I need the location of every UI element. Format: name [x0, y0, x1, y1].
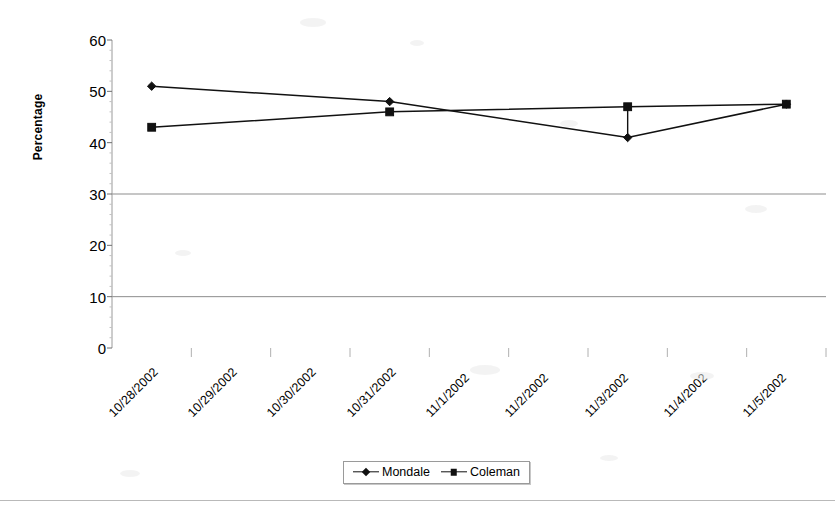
x-axis-tick-labels: 10/28/200210/29/200210/30/200210/31/2002…	[0, 0, 835, 512]
x-tick-label: 11/1/2002	[423, 371, 472, 420]
legend-label: Coleman	[470, 465, 520, 479]
legend-label: Mondale	[382, 465, 430, 479]
page-divider	[0, 500, 835, 501]
chart-legend: MondaleColeman	[343, 461, 530, 484]
x-tick-label: 11/4/2002	[661, 371, 710, 420]
legend-entry-mondale: Mondale	[353, 465, 430, 479]
diamond-marker-icon	[353, 467, 379, 477]
square-marker-icon	[441, 467, 467, 477]
x-tick-label: 11/5/2002	[740, 371, 789, 420]
poll-line-chart: Percentage 0102030405060 10/28/200210/29…	[0, 0, 835, 512]
x-tick-label: 10/30/2002	[264, 365, 319, 420]
x-tick-label: 10/29/2002	[185, 365, 240, 420]
x-tick-label: 10/31/2002	[344, 365, 399, 420]
x-tick-label: 10/28/2002	[106, 365, 161, 420]
x-tick-label: 11/2/2002	[502, 371, 551, 420]
x-tick-label: 11/3/2002	[582, 371, 631, 420]
legend-entry-coleman: Coleman	[441, 465, 520, 479]
